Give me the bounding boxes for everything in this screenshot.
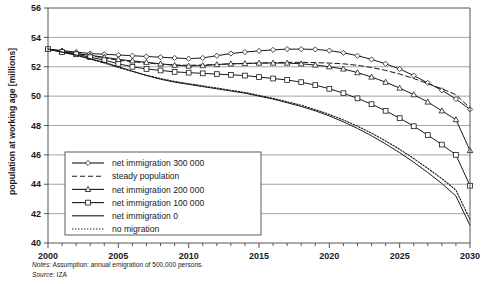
x-axis-ticks <box>48 243 470 248</box>
source-text: IZA <box>55 271 68 278</box>
data-point-marker <box>341 91 346 96</box>
x-tick-label: 2000 <box>38 251 58 261</box>
y-axis-tick-labels: 404244464850525456 <box>31 3 41 248</box>
data-point-marker <box>313 83 318 88</box>
notes-label: Notes: <box>32 261 51 268</box>
legend-label: no migration <box>112 224 160 234</box>
data-point-marker <box>369 102 374 107</box>
legend-label: net immigration 100 000 <box>112 198 204 208</box>
y-axis-title: population at working age [millions] <box>7 48 17 195</box>
x-tick-label: 2030 <box>460 251 480 261</box>
data-point-marker <box>144 67 149 72</box>
y-tick-label: 52 <box>31 62 41 72</box>
data-point-marker <box>299 80 304 85</box>
x-tick-label: 2025 <box>390 251 410 261</box>
x-tick-label: 2020 <box>319 251 339 261</box>
data-point-marker <box>200 71 205 76</box>
data-point-marker <box>186 70 191 75</box>
y-tick-label: 50 <box>31 91 41 101</box>
data-point-marker <box>425 133 430 138</box>
notes-line: Notes: Assumption: annual emigration of … <box>32 261 203 269</box>
y-tick-label: 48 <box>31 121 41 131</box>
data-point-marker <box>158 68 163 73</box>
y-tick-label: 56 <box>31 3 41 13</box>
data-point-marker <box>397 116 402 121</box>
x-axis-tick-labels: 2000200520102015202020252030 <box>38 251 480 261</box>
legend-label: net immigration 300 000 <box>112 158 204 168</box>
y-tick-label: 54 <box>31 33 41 43</box>
x-tick-label: 2015 <box>249 251 269 261</box>
data-point-marker <box>327 86 332 91</box>
data-point-marker <box>130 64 135 69</box>
notes-text: Assumption: annual emigration of 500,000… <box>51 261 203 269</box>
data-point-marker <box>439 142 444 147</box>
data-point-marker <box>383 108 388 113</box>
legend-label: net immigration 0 <box>112 211 178 221</box>
data-point-marker <box>172 69 177 74</box>
data-point-marker <box>243 73 248 78</box>
y-tick-label: 42 <box>31 209 41 219</box>
data-point-marker <box>454 152 459 157</box>
data-point-marker <box>228 72 233 77</box>
source-label: Source: <box>32 271 55 278</box>
y-axis-ticks <box>44 8 48 243</box>
data-point-marker <box>411 124 416 129</box>
figure-container: 404244464850525456 200020052010201520202… <box>0 0 485 284</box>
data-point-marker <box>257 75 262 80</box>
x-tick-label: 2010 <box>179 251 199 261</box>
data-point-marker <box>214 72 219 77</box>
y-tick-label: 44 <box>31 179 41 189</box>
data-point-marker <box>355 96 360 101</box>
data-point-marker <box>271 76 276 81</box>
chart-legend: net immigration 300 000steady population… <box>65 152 261 235</box>
population-projection-chart: 404244464850525456 200020052010201520202… <box>0 0 485 284</box>
data-point-marker <box>86 200 91 205</box>
x-tick-label: 2005 <box>108 251 128 261</box>
y-tick-label: 40 <box>31 238 41 248</box>
source-line: Source: IZA <box>32 271 67 278</box>
y-tick-label: 46 <box>31 150 41 160</box>
legend-label: net immigration 200 000 <box>112 185 204 195</box>
data-point-marker <box>116 61 121 66</box>
data-point-marker <box>285 78 290 83</box>
legend-label: steady population <box>112 171 180 181</box>
